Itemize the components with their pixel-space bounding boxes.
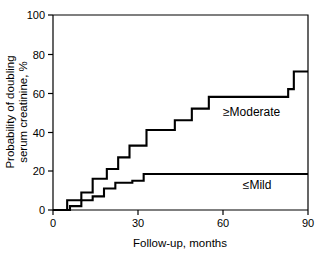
y-tick-label-40: 40 bbox=[33, 127, 45, 139]
y-tick-label-60: 60 bbox=[33, 88, 45, 100]
y-tick-label-100: 100 bbox=[27, 9, 45, 21]
x-axis-title: Follow-up, months bbox=[133, 237, 227, 249]
y-axis-ticks bbox=[48, 15, 53, 210]
survival-step-chart: 0 20 40 60 80 100 0 30 60 90 Follow-up, … bbox=[0, 0, 328, 254]
y-axis-title-line1: Probability of doubling bbox=[4, 55, 16, 168]
x-axis-ticks bbox=[53, 210, 308, 215]
y-tick-label-20: 20 bbox=[33, 165, 45, 177]
chart-figure: 0 20 40 60 80 100 0 30 60 90 Follow-up, … bbox=[0, 0, 328, 254]
x-tick-label-0: 0 bbox=[50, 217, 56, 229]
x-tick-label-60: 60 bbox=[217, 217, 229, 229]
x-tick-label-90: 90 bbox=[302, 217, 314, 229]
y-axis-title-line2: serum creatinine, % bbox=[17, 61, 29, 163]
y-tick-label-80: 80 bbox=[33, 49, 45, 61]
y-tick-label-0: 0 bbox=[39, 204, 45, 216]
series-label-mild: ≤Mild bbox=[243, 178, 272, 192]
x-tick-label-30: 30 bbox=[132, 217, 144, 229]
series-label-moderate: ≥Moderate bbox=[223, 105, 281, 119]
